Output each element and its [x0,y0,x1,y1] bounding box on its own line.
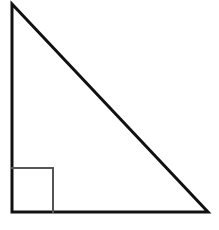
geometry-diagram [0,0,219,230]
right-triangle-shape [12,4,208,212]
figure-canvas [0,0,219,230]
right-angle-square-marker [12,168,53,212]
